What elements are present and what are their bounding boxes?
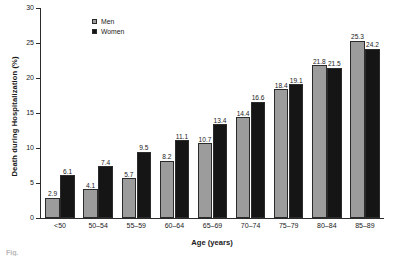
- bar-men: 18.4: [274, 89, 289, 218]
- bar-value-label: 8.2: [162, 153, 171, 160]
- bar-men: 5.7: [122, 178, 137, 218]
- plot-area: 051015202530 2.96.1<504.17.450–545.79.55…: [40, 8, 384, 219]
- bar-women: 24.2: [365, 49, 380, 218]
- bar-group: 4.17.450–54: [79, 8, 117, 218]
- bar-groups: 2.96.1<504.17.450–545.79.555–598.211.160…: [41, 8, 384, 218]
- bar-value-label: 18.4: [275, 82, 288, 89]
- bar-men: 14.4: [236, 117, 251, 218]
- bar-group: 8.211.160–64: [155, 8, 193, 218]
- y-tick-mark: [36, 8, 40, 9]
- bar-women: 16.6: [251, 102, 266, 218]
- bar-group: 5.79.555–59: [117, 8, 155, 218]
- bar-value-label: 19.1: [290, 77, 303, 84]
- x-axis-title: Age (years): [36, 238, 388, 247]
- bar-women: 21.5: [327, 68, 342, 219]
- legend-item-men: Men: [92, 17, 124, 25]
- bar-value-label: 4.1: [86, 182, 95, 189]
- y-tick-mark: [36, 113, 40, 114]
- y-tick-mark: [36, 78, 40, 79]
- legend-swatch-women-icon: [92, 29, 97, 34]
- y-tick-label: 30: [26, 4, 34, 11]
- x-tick-label: 70–74: [241, 222, 260, 229]
- bar-value-label: 9.5: [139, 144, 148, 151]
- y-tick-label: 25: [26, 39, 34, 46]
- bar-value-label: 6.1: [63, 168, 72, 175]
- legend: Men Women: [92, 17, 124, 37]
- y-tick-mark: [36, 148, 40, 149]
- bar-value-label: 25.3: [351, 33, 364, 40]
- x-axis-line: [40, 218, 384, 219]
- bar-men: 10.7: [198, 143, 213, 218]
- x-tick-label: 60–64: [165, 222, 184, 229]
- legend-label-women: Women: [101, 28, 124, 35]
- legend-swatch-men-icon: [92, 19, 97, 24]
- y-tick-mark: [36, 218, 40, 219]
- bar-group: 25.324.285–89: [346, 8, 384, 218]
- bar-women: 19.1: [289, 84, 304, 218]
- bar-women: 11.1: [175, 140, 190, 218]
- x-tick-label: <50: [54, 222, 66, 229]
- bar-group: 21.821.580–84: [308, 8, 346, 218]
- y-tick-mark: [36, 183, 40, 184]
- bar-men: 2.9: [45, 198, 60, 218]
- bar-group: 2.96.1<50: [41, 8, 79, 218]
- x-tick-label: 75–79: [279, 222, 298, 229]
- bar-group: 14.416.670–74: [232, 8, 270, 218]
- bar-women: 9.5: [137, 152, 152, 219]
- bar-value-label: 21.5: [328, 60, 341, 67]
- bar-group: 10.713.465–69: [193, 8, 231, 218]
- bar-value-label: 13.4: [214, 117, 227, 124]
- figure-caption: Fig.: [6, 249, 18, 256]
- legend-item-women: Women: [92, 27, 124, 35]
- y-tick-label: 15: [26, 109, 34, 116]
- bar-men: 21.8: [312, 65, 327, 218]
- bar-women: 7.4: [98, 166, 113, 218]
- bar-value-label: 2.9: [48, 190, 57, 197]
- bar-value-label: 5.7: [124, 171, 133, 178]
- bar-women: 13.4: [213, 124, 228, 218]
- bar-group: 18.419.175–79: [270, 8, 308, 218]
- x-tick-label: 50–54: [88, 222, 107, 229]
- bar-value-label: 16.6: [252, 94, 265, 101]
- bar-value-label: 11.1: [176, 133, 188, 140]
- bar-men: 4.1: [83, 189, 98, 218]
- bar-value-label: 7.4: [101, 159, 110, 166]
- y-tick-label: 0: [30, 214, 34, 221]
- bar-value-label: 14.4: [237, 110, 250, 117]
- bar-value-label: 21.8: [313, 58, 326, 65]
- figure-bar-chart: Death during Hospitalization (%) 0510152…: [0, 0, 394, 256]
- bar-men: 25.3: [350, 41, 365, 218]
- bar-value-label: 24.2: [366, 41, 379, 48]
- y-tick-label: 5: [30, 179, 34, 186]
- bar-value-label: 10.7: [199, 136, 212, 143]
- y-tick-mark: [36, 43, 40, 44]
- bar-men: 8.2: [160, 161, 175, 218]
- legend-label-men: Men: [101, 18, 114, 25]
- x-tick-label: 80–84: [317, 222, 336, 229]
- y-tick-label: 20: [26, 74, 34, 81]
- bar-women: 6.1: [60, 175, 75, 218]
- x-tick-label: 65–69: [203, 222, 222, 229]
- y-tick-label: 10: [26, 144, 34, 151]
- y-axis-title: Death during Hospitalization (%): [10, 7, 19, 227]
- x-tick-label: 85–89: [355, 222, 374, 229]
- x-tick-label: 55–59: [127, 222, 146, 229]
